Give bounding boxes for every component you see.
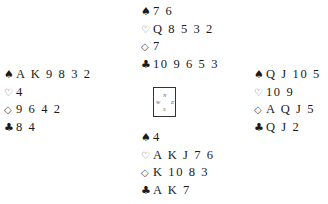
west-diamonds: ◇9 6 4 2 [4, 101, 92, 119]
compass-east-label: E [171, 100, 174, 105]
west-clubs: ♣8 4 [4, 119, 92, 137]
south-hand: ♠4 ♡A K J 7 6 ◇K 10 8 3 ♣A K 7 [141, 129, 215, 199]
south-clubs: ♣A K 7 [141, 182, 215, 200]
west-spades: ♠A K 9 8 3 2 [4, 66, 92, 84]
west-hearts: ♡4 [4, 84, 92, 102]
spade-icon: ♠ [254, 66, 266, 84]
club-icon: ♣ [4, 119, 16, 137]
east-diamonds: ◇A Q J 5 [254, 101, 321, 119]
north-hand: ♠7 6 ♡Q 8 5 3 2 ◇7 ♣10 9 6 5 3 [141, 3, 219, 73]
east-hearts: ♡10 9 [254, 84, 321, 102]
north-diamonds: ◇7 [141, 38, 219, 56]
south-hearts: ♡A K J 7 6 [141, 147, 215, 165]
east-clubs: ♣Q J 2 [254, 119, 321, 137]
compass-south-label: S [163, 107, 166, 112]
spade-icon: ♠ [4, 66, 16, 84]
north-clubs: ♣10 9 6 5 3 [141, 56, 219, 74]
heart-icon: ♡ [141, 21, 153, 39]
heart-icon: ♡ [4, 84, 16, 102]
club-icon: ♣ [141, 182, 153, 200]
north-hearts: ♡Q 8 5 3 2 [141, 21, 219, 39]
diamond-icon: ◇ [141, 164, 153, 182]
club-icon: ♣ [254, 119, 266, 137]
spade-icon: ♠ [141, 129, 153, 147]
heart-icon: ♡ [141, 147, 153, 165]
west-hand: ♠A K 9 8 3 2 ♡4 ◇9 6 4 2 ♣8 4 [4, 66, 92, 136]
compass-box: N W E S [153, 87, 176, 117]
diamond-icon: ◇ [254, 101, 266, 119]
diamond-icon: ◇ [141, 38, 153, 56]
club-icon: ♣ [141, 56, 153, 74]
spade-icon: ♠ [141, 3, 153, 21]
heart-icon: ♡ [254, 84, 266, 102]
east-hand: ♠Q J 10 5 ♡10 9 ◇A Q J 5 ♣Q J 2 [254, 66, 321, 136]
east-spades: ♠Q J 10 5 [254, 66, 321, 84]
compass-west-label: W [156, 100, 160, 105]
compass-north-label: N [163, 93, 166, 98]
south-spades: ♠4 [141, 129, 215, 147]
south-diamonds: ◇K 10 8 3 [141, 164, 215, 182]
diamond-icon: ◇ [4, 101, 16, 119]
north-spades: ♠7 6 [141, 3, 219, 21]
